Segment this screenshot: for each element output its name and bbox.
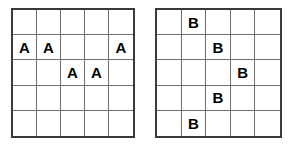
grid-cell[interactable] [85, 10, 109, 35]
cell-letter: A [43, 40, 54, 55]
grid-cell[interactable] [255, 60, 280, 85]
cell-letter: B [213, 90, 224, 105]
cell-letter: B [188, 116, 199, 131]
grid-cell[interactable] [85, 111, 109, 136]
grid-cell[interactable]: A [37, 35, 61, 60]
cell-letter: A [19, 40, 30, 55]
grid-cell[interactable] [255, 86, 280, 111]
grid-cell[interactable] [255, 35, 280, 60]
grid-cell[interactable] [13, 10, 37, 35]
grid-cell[interactable] [61, 10, 85, 35]
grid-cell[interactable] [231, 35, 256, 60]
grid-cell[interactable] [157, 86, 182, 111]
grid-cell[interactable] [85, 86, 109, 111]
diagram-canvas: A A A A A B B B [0, 0, 296, 147]
grid-cell[interactable]: A [13, 35, 37, 60]
grid-cell[interactable]: A [61, 60, 85, 85]
cell-letter: B [188, 15, 199, 30]
grid-cell[interactable] [61, 35, 85, 60]
grid-cell[interactable] [182, 35, 207, 60]
grid-cell[interactable] [157, 111, 182, 136]
grid-cell[interactable] [109, 60, 133, 85]
grid-cell[interactable] [85, 35, 109, 60]
grid-cell[interactable] [37, 86, 61, 111]
cell-letter: A [91, 65, 102, 80]
grid-cell[interactable] [13, 60, 37, 85]
grid-cell[interactable]: A [85, 60, 109, 85]
grid-cell[interactable]: B [182, 10, 207, 35]
grid-cell[interactable]: B [206, 86, 231, 111]
right-grid: B B B B B [155, 8, 282, 138]
grid-cell[interactable] [13, 111, 37, 136]
grid-cell[interactable] [206, 60, 231, 85]
grid-cell[interactable] [255, 10, 280, 35]
grid-cell[interactable] [37, 111, 61, 136]
cell-letter: A [67, 65, 78, 80]
grid-cell[interactable] [13, 86, 37, 111]
grid-cell[interactable] [182, 86, 207, 111]
grid-cell[interactable] [255, 111, 280, 136]
grid-cell[interactable] [157, 35, 182, 60]
grid-cell[interactable]: B [182, 111, 207, 136]
grid-cell[interactable] [206, 10, 231, 35]
grid-cell[interactable] [206, 111, 231, 136]
grid-cell[interactable] [231, 111, 256, 136]
grid-cell[interactable]: A [109, 35, 133, 60]
grid-cell[interactable] [231, 10, 256, 35]
grid-cell[interactable] [231, 86, 256, 111]
cell-letter: A [116, 40, 127, 55]
grid-cell[interactable] [157, 60, 182, 85]
grid-cell[interactable]: B [231, 60, 256, 85]
grid-cell[interactable] [37, 10, 61, 35]
grid-cell[interactable] [109, 10, 133, 35]
grid-cell[interactable] [157, 10, 182, 35]
grid-cell[interactable] [61, 111, 85, 136]
grid-cell[interactable] [109, 86, 133, 111]
cell-letter: B [237, 65, 248, 80]
grid-cell[interactable] [61, 86, 85, 111]
grid-cell[interactable] [182, 60, 207, 85]
grid-cell[interactable] [37, 60, 61, 85]
grid-cell[interactable]: B [206, 35, 231, 60]
left-grid: A A A A A [11, 8, 135, 138]
grid-cell[interactable] [109, 111, 133, 136]
cell-letter: B [213, 40, 224, 55]
